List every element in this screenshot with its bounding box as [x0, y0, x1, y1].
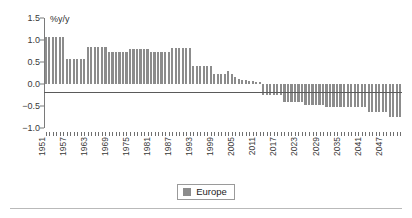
bar — [59, 37, 61, 84]
x-tick-mark — [225, 132, 226, 136]
x-tick-mark — [148, 132, 149, 136]
x-tick-mark — [362, 132, 363, 136]
x-tick-label: 1969 — [101, 137, 110, 156]
bar — [364, 84, 366, 107]
x-tick-mark — [365, 132, 366, 136]
bar — [322, 84, 324, 105]
bar — [118, 52, 120, 84]
x-tick-label: 1987 — [164, 137, 173, 156]
x-tick-label: 2029 — [311, 137, 320, 156]
x-tick-mark — [204, 132, 205, 136]
x-tick-mark — [88, 132, 89, 136]
x-tick-mark — [172, 132, 173, 136]
bar — [108, 52, 110, 84]
x-tick-mark — [334, 132, 335, 136]
bar — [378, 84, 380, 112]
x-tick-mark — [141, 132, 142, 136]
bar — [87, 47, 89, 84]
bar — [399, 84, 401, 117]
x-tick-mark — [186, 132, 187, 136]
bar — [329, 84, 331, 107]
x-tick-mark — [165, 132, 166, 136]
bar — [153, 52, 155, 84]
x-tick-mark — [46, 132, 47, 136]
bar — [276, 84, 278, 95]
x-tick-label: 1999 — [206, 137, 215, 156]
x-tick-mark — [211, 132, 212, 136]
bar — [259, 82, 261, 84]
x-tick-mark — [63, 132, 64, 136]
bar — [350, 84, 352, 107]
x-tick-mark — [320, 132, 321, 136]
chart-figure: %y/y 1.51.00.50.0−0.5−1.0 19511957196319… — [0, 0, 412, 218]
x-tick-mark — [383, 132, 384, 136]
x-tick-mark — [270, 132, 271, 136]
bar — [83, 59, 85, 84]
x-tick-mark — [295, 132, 296, 136]
bar — [48, 37, 50, 84]
x-tick-mark — [102, 132, 103, 136]
x-tick-mark — [249, 132, 250, 136]
x-tick-label: 2005 — [227, 137, 236, 156]
x-tick-mark — [344, 132, 345, 136]
y-tick-mark — [40, 62, 44, 63]
x-tick-mark — [284, 132, 285, 136]
y-tick-label: −0.5 — [22, 102, 40, 111]
x-tick-mark — [207, 132, 208, 136]
x-tick-label: 2017 — [269, 137, 278, 156]
x-tick-mark — [179, 132, 180, 136]
bar — [392, 84, 394, 117]
y-tick-mark — [40, 84, 44, 85]
bar — [69, 59, 71, 84]
x-tick-mark — [116, 132, 117, 136]
x-tick-mark — [355, 132, 356, 136]
bar — [178, 48, 180, 84]
x-tick-mark — [81, 132, 82, 136]
x-tick-mark — [313, 132, 314, 136]
x-tick-mark — [190, 132, 191, 136]
x-tick-mark — [235, 132, 236, 136]
bar — [196, 66, 198, 84]
legend-item-europe[interactable]: Europe — [177, 184, 235, 200]
y-tick-label: 0.5 — [27, 58, 40, 67]
x-tick-mark — [316, 132, 317, 136]
x-tick-mark — [56, 132, 57, 136]
x-tick-mark — [337, 132, 338, 136]
x-tick-mark — [400, 132, 401, 136]
x-tick-mark — [60, 132, 61, 136]
x-tick-mark — [390, 132, 391, 136]
bar — [111, 52, 113, 84]
bar — [101, 47, 103, 84]
x-tick-label: 1963 — [80, 137, 89, 156]
bar — [139, 49, 141, 84]
x-tick-mark — [119, 132, 120, 136]
bar — [396, 84, 398, 117]
x-tick-mark — [369, 132, 370, 136]
bar — [157, 52, 159, 84]
bar — [76, 59, 78, 84]
bar — [171, 48, 173, 84]
x-tick-mark — [155, 132, 156, 136]
x-tick-mark — [281, 132, 282, 136]
bar — [185, 48, 187, 84]
x-tick-mark — [288, 132, 289, 136]
bar — [80, 59, 82, 84]
y-tick-mark — [40, 40, 44, 41]
bar — [347, 84, 349, 107]
bar — [94, 47, 96, 84]
x-tick-label: 2023 — [290, 137, 299, 156]
bar — [231, 74, 233, 84]
zero-baseline — [44, 92, 402, 93]
x-tick-mark — [274, 132, 275, 136]
x-axis-labels: 1951195719631969197519811987199319992005… — [44, 132, 402, 174]
bar — [227, 71, 229, 84]
bar — [217, 74, 219, 84]
bar — [354, 84, 356, 107]
x-tick-label: 1951 — [38, 137, 47, 156]
x-tick-mark — [53, 132, 54, 136]
bar — [104, 47, 106, 84]
bar — [136, 49, 138, 84]
x-tick-mark — [277, 132, 278, 136]
x-tick-mark — [126, 132, 127, 136]
bar — [280, 84, 282, 95]
